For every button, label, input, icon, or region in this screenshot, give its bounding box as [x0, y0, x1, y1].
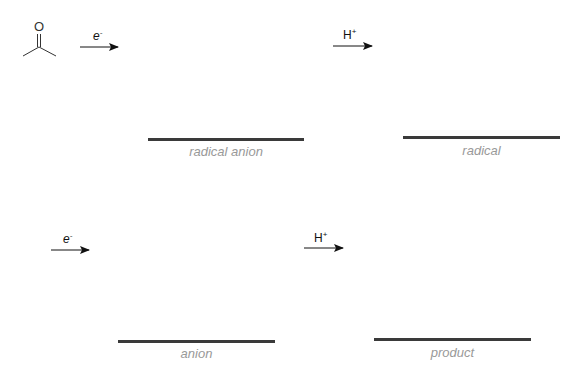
level-radical-anion [148, 138, 304, 141]
reagent-step1-sup: - [100, 28, 103, 37]
oxygen-atom-label: O [34, 19, 44, 34]
reagent-step4: H+ [314, 230, 327, 245]
label-radical-anion: radical anion [148, 144, 304, 159]
label-anion: anion [118, 346, 275, 361]
acetone-structure [23, 34, 56, 56]
reagent-step2-sup: + [352, 27, 357, 36]
reagent-step3: e- [63, 231, 72, 246]
level-anion [118, 340, 275, 343]
reagent-step3-sup: - [70, 231, 73, 240]
level-radical [403, 136, 560, 139]
label-product: product [374, 345, 531, 360]
reagent-step2-text: H [343, 28, 352, 42]
diagram-canvas [0, 0, 587, 372]
reagent-step3-text: e [63, 232, 70, 246]
reagent-step2: H+ [343, 27, 356, 42]
level-product [374, 338, 531, 341]
reagent-step1: e- [93, 28, 102, 43]
reagent-step4-sup: + [323, 230, 328, 239]
label-radical: radical [403, 143, 560, 158]
reagent-step1-text: e [93, 29, 100, 43]
reagent-step4-text: H [314, 231, 323, 245]
